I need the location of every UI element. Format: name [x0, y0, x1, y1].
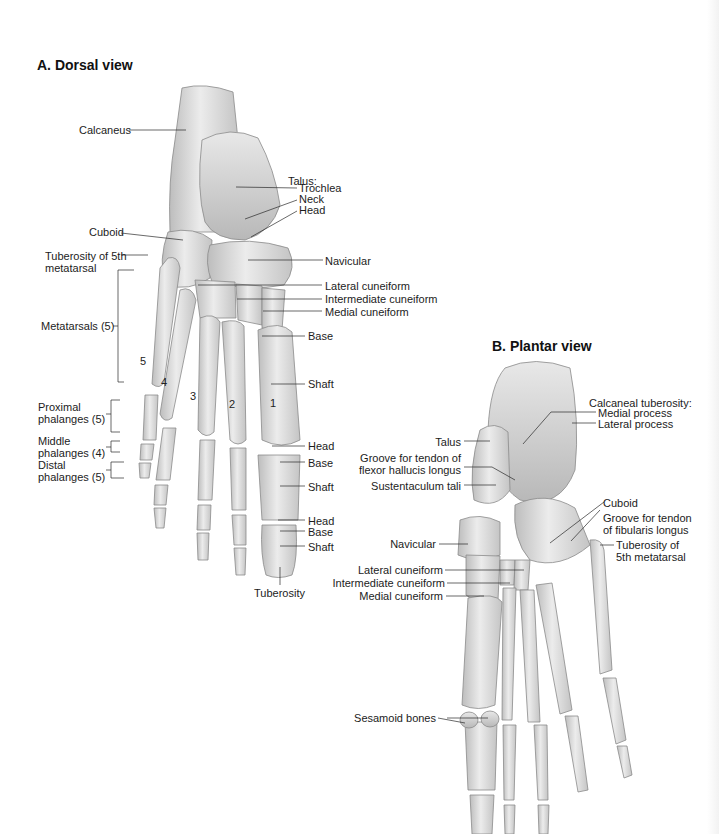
label-sesamoid-bones: Sesamoid bones [340, 712, 436, 724]
label-metatarsal-base: Base [308, 330, 333, 342]
digit-number-3: 3 [190, 390, 196, 402]
label-cuboid: Cuboid [89, 226, 124, 238]
label-line: Tuberosity of 5th [45, 250, 127, 262]
label-line: Groove for tendon of [360, 452, 461, 464]
label-talus-plantar: Talus [400, 436, 461, 448]
label-medial-cuneiform-plantar: Medial cuneiform [330, 590, 443, 602]
label-medial-cuneiform: Medial cuneiform [325, 306, 409, 318]
label-metatarsals: Metatarsals (5) [41, 320, 114, 332]
label-distal-phalanx-shaft: Shaft [308, 541, 334, 553]
label-cuboid-plantar: Cuboid [603, 497, 638, 509]
label-line: Distal [38, 459, 66, 471]
label-lateral-process: Lateral process [598, 418, 673, 430]
label-lateral-cuneiform: Lateral cuneiform [325, 280, 410, 292]
label-line: Proximal [38, 401, 81, 413]
label-line: Middle [38, 435, 70, 447]
label-groove-fibularis-longus: Groove for tendon of fibularis longus [603, 512, 692, 536]
label-line: Tuberosity of [616, 539, 679, 551]
label-distal-phalanx-base: Base [308, 526, 333, 538]
label-line: 5th metatarsal [616, 551, 686, 563]
label-proximal-phalanx-base: Base [308, 457, 333, 469]
label-distal-phalanges: Distal phalanges (5) [38, 459, 105, 483]
label-intermediate-cuneiform: Intermediate cuneiform [325, 293, 438, 305]
label-line: Groove for tendon [603, 512, 692, 524]
label-line: flexor hallucis longus [359, 464, 461, 476]
label-line: phalanges (4) [38, 447, 105, 459]
label-head: Head [299, 204, 325, 216]
label-tuberosity-5th-metatarsal-plantar: Tuberosity of 5th metatarsal [616, 539, 686, 563]
label-intermediate-cuneiform-plantar: Intermediate cuneiform [320, 577, 445, 589]
label-groove-flexor-hallucis-longus: Groove for tendon of flexor hallucis lon… [340, 452, 461, 476]
plantar-view-title: B. Plantar view [492, 338, 592, 354]
label-metatarsal-shaft: Shaft [308, 378, 334, 390]
label-sustentaculum-tali: Sustentaculum tali [360, 480, 461, 492]
dorsal-foot [139, 86, 300, 578]
digit-number-1: 1 [270, 397, 276, 409]
label-line: of fibularis longus [603, 524, 689, 536]
digit-number-2: 2 [229, 398, 235, 410]
label-proximal-phalanges: Proximal phalanges (5) [38, 401, 105, 425]
digit-number-5: 5 [140, 355, 146, 367]
label-proximal-phalanx-shaft: Shaft [308, 481, 334, 493]
label-line: phalanges (5) [38, 413, 105, 425]
label-middle-phalanges: Middle phalanges (4) [38, 435, 105, 459]
digit-number-4: 4 [161, 376, 167, 388]
label-navicular-plantar: Navicular [360, 538, 436, 550]
label-navicular: Navicular [325, 255, 371, 267]
label-tuberosity: Tuberosity [254, 587, 305, 599]
label-tuberosity-5th-metatarsal: Tuberosity of 5th metatarsal [45, 250, 127, 274]
dorsal-view-title: A. Dorsal view [37, 57, 133, 73]
label-line: metatarsal [45, 262, 96, 274]
label-lateral-cuneiform-plantar: Lateral cuneiform [330, 564, 443, 576]
label-calcaneus: Calcaneus [79, 124, 131, 136]
label-line: phalanges (5) [38, 471, 105, 483]
plantar-foot [458, 362, 632, 834]
label-metatarsal-head: Head [308, 440, 334, 452]
